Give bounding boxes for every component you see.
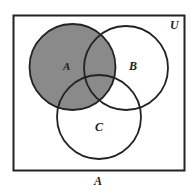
- venn-diagram: A B C U A: [0, 0, 194, 193]
- set-a-label: A: [62, 60, 70, 72]
- universe-label: U: [170, 18, 180, 32]
- set-b-label: B: [128, 59, 137, 73]
- set-c-label: C: [95, 120, 104, 134]
- caption-label: A: [93, 174, 102, 188]
